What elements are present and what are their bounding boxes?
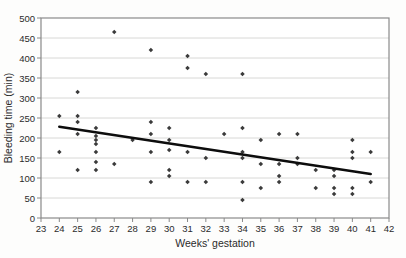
- x-tick-label: 29: [146, 223, 157, 234]
- x-tick-label: 38: [310, 223, 321, 234]
- y-tick-label: 500: [19, 13, 35, 24]
- x-tick-label: 37: [292, 223, 303, 234]
- x-tick-label: 23: [36, 223, 47, 234]
- y-tick-label: 300: [19, 93, 35, 104]
- y-tick-label: 50: [24, 193, 35, 204]
- x-tick-label: 35: [256, 223, 267, 234]
- y-tick-label: 400: [19, 53, 35, 64]
- y-tick-label: 200: [19, 133, 35, 144]
- x-tick-label: 26: [91, 223, 102, 234]
- x-tick-label: 40: [347, 223, 358, 234]
- x-tick-label: 24: [54, 223, 65, 234]
- x-tick-label: 42: [384, 223, 395, 234]
- x-tick-label: 32: [201, 223, 212, 234]
- x-tick-label: 39: [329, 223, 340, 234]
- y-tick-label: 350: [19, 73, 35, 84]
- x-tick-label: 34: [237, 223, 248, 234]
- x-tick-label: 41: [365, 223, 376, 234]
- y-tick-label: 250: [19, 113, 35, 124]
- y-axis-title: Bleeding time (min): [2, 73, 14, 163]
- x-tick-label: 31: [182, 223, 193, 234]
- y-tick-label: 450: [19, 33, 35, 44]
- y-tick-label: 0: [30, 213, 35, 224]
- y-tick-label: 150: [19, 153, 35, 164]
- x-tick-label: 36: [274, 223, 285, 234]
- y-tick-label: 100: [19, 173, 35, 184]
- x-axis-title: Weeks' gestation: [175, 237, 255, 249]
- x-tick-label: 25: [72, 223, 83, 234]
- bleeding-time-vs-gestation-scatter-chart: 0501001502002503003504004505002324252627…: [0, 0, 406, 258]
- x-tick-label: 33: [219, 223, 230, 234]
- x-tick-label: 30: [164, 223, 175, 234]
- x-tick-label: 28: [127, 223, 138, 234]
- bleeding-time-chart-figure: 0501001502002503003504004505002324252627…: [0, 0, 406, 258]
- x-tick-label: 27: [109, 223, 120, 234]
